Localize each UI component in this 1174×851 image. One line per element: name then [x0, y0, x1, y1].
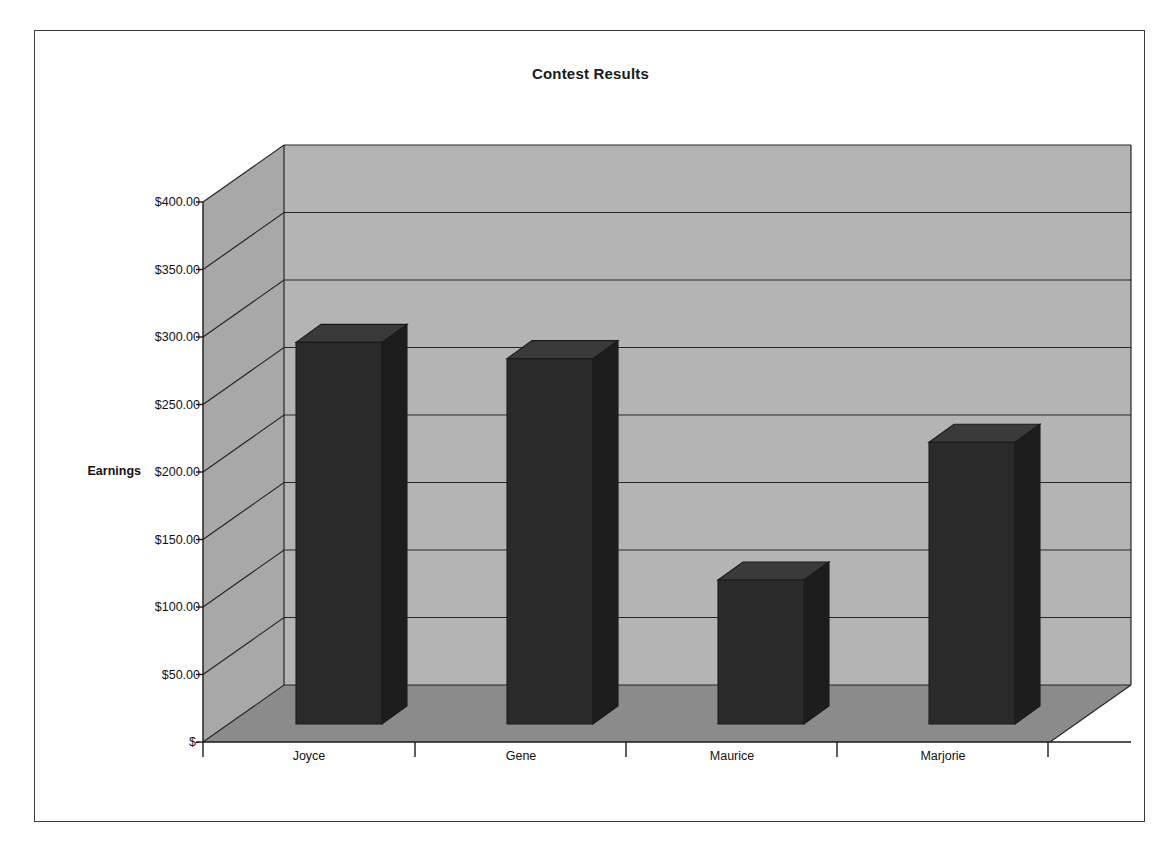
y-tick-label: $300.00 [110, 330, 200, 344]
y-tick-label: $50.00 [110, 668, 200, 682]
chart-3d-scene [35, 31, 1146, 823]
y-tick-label: $150.00 [110, 533, 200, 547]
chart-image: Contest Results [0, 0, 1174, 851]
y-tick-label: $- [110, 735, 200, 749]
x-tick-label-gene: Gene [506, 749, 537, 763]
bar-joyce [296, 324, 407, 724]
y-tick-label: $100.00 [110, 600, 200, 614]
y-axis-tick-labels: $400.00 $350.00 $300.00 $250.00 $200.00 … [95, 31, 200, 823]
x-tick-label-marjorie: Marjorie [920, 749, 965, 763]
y-axis-title: Earnings [51, 464, 141, 478]
bar-gene [507, 341, 618, 724]
x-tick-label-maurice: Maurice [710, 749, 754, 763]
y-tick-label: $250.00 [110, 398, 200, 412]
bar-maurice [718, 562, 829, 724]
bar-marjorie [929, 424, 1040, 724]
y-tick-label: $400.00 [110, 195, 200, 209]
x-tick-label-joyce: Joyce [293, 749, 326, 763]
y-tick-label: $350.00 [110, 263, 200, 277]
chart-frame: Contest Results [34, 30, 1145, 822]
plot-area: $400.00 $350.00 $300.00 $250.00 $200.00 … [35, 31, 1146, 823]
